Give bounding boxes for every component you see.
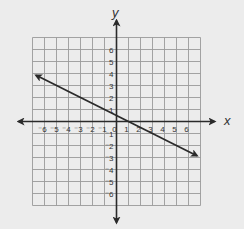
y-tick-label: ⁻4 xyxy=(105,166,114,175)
x-tick-label: ⁻2 xyxy=(86,125,95,134)
x-tick-label: 6 xyxy=(184,125,189,134)
y-tick-label: 3 xyxy=(109,82,114,91)
y-tick-label: ⁻3 xyxy=(105,154,114,163)
y-tick-label: ⁻6 xyxy=(105,190,114,199)
x-axis-label: x xyxy=(223,113,231,128)
x-tick-label: ⁻3 xyxy=(74,125,83,134)
y-tick-label: ⁻1 xyxy=(105,130,114,139)
coordinate-plane: ⁻6⁻5⁻4⁻3⁻2⁻10123456⁻6⁻5⁻4⁻3⁻2⁻1123456 x … xyxy=(0,0,244,229)
y-tick-label: 6 xyxy=(109,46,114,55)
y-tick-label: ⁻2 xyxy=(105,142,114,151)
y-tick-label: 2 xyxy=(109,94,114,103)
y-tick-label: 4 xyxy=(109,70,114,79)
x-tick-label: ⁻6 xyxy=(38,125,47,134)
x-tick-label: 1 xyxy=(124,125,129,134)
y-tick-label: 5 xyxy=(109,58,114,67)
x-tick-label: ⁻4 xyxy=(62,125,71,134)
x-tick-label: ⁻5 xyxy=(50,125,59,134)
x-tick-label: 5 xyxy=(172,125,177,134)
x-tick-label: 4 xyxy=(160,125,165,134)
y-axis-label: y xyxy=(111,5,120,20)
y-tick-label: ⁻5 xyxy=(105,178,114,187)
axes xyxy=(19,21,215,223)
